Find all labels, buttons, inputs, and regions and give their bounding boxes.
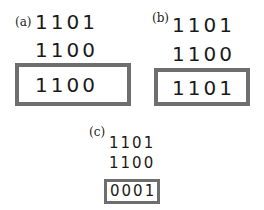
panel-a-operand-2: 1100 — [35, 40, 98, 60]
panel-b-operand-2: 1100 — [172, 44, 235, 64]
panel-c-result-box: 0001 — [104, 179, 160, 204]
panel-b-label: (b) — [152, 11, 169, 25]
panel-c-operand-2: 1100 — [109, 156, 155, 171]
panel-a-result-box: 1100 — [15, 63, 131, 106]
panel-c-operand-1: 1101 — [109, 136, 155, 151]
panel-a-operand-1: 1101 — [35, 12, 98, 32]
panel-b-operand-1: 1101 — [172, 15, 235, 35]
panel-a-label: (a) — [15, 15, 32, 29]
panel-c-result: 0001 — [110, 184, 157, 199]
panel-b-result-box: 1101 — [154, 68, 250, 106]
panel-c-label: (c) — [89, 125, 105, 139]
panel-a-result: 1100 — [35, 75, 127, 95]
panel-b-result: 1101 — [172, 78, 246, 98]
